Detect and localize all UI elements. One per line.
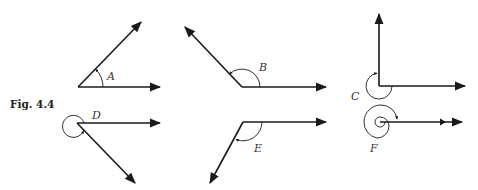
angle-b-label: B bbox=[258, 61, 267, 74]
angle-e-arc bbox=[236, 122, 262, 141]
figure-caption: Fig. 4.4 bbox=[10, 98, 54, 110]
angle-d: D bbox=[63, 109, 160, 183]
angle-f: F bbox=[364, 105, 462, 155]
angle-e: E bbox=[210, 122, 326, 183]
angle-e-terminal-ray bbox=[210, 122, 243, 183]
angles-figure: Fig. 4.4 A B C D E F bbox=[0, 0, 478, 190]
angle-c: C bbox=[351, 14, 465, 103]
angle-d-label: D bbox=[91, 109, 101, 122]
angle-f-second-arrowhead bbox=[440, 119, 446, 126]
angle-c-label: C bbox=[351, 90, 360, 103]
angle-b-terminal-ray bbox=[185, 27, 242, 87]
angle-a-arc bbox=[96, 69, 104, 87]
angle-b: B bbox=[185, 27, 326, 87]
angle-a: A bbox=[78, 22, 160, 87]
angle-e-label: E bbox=[253, 142, 262, 155]
angle-a-label: A bbox=[106, 70, 115, 83]
angle-f-label: F bbox=[369, 142, 378, 155]
angle-d-terminal-ray bbox=[77, 123, 135, 183]
